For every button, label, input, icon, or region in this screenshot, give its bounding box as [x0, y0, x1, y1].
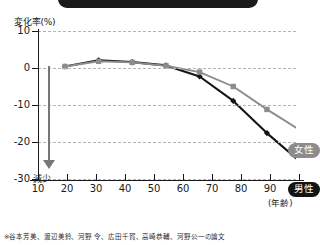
x-axis-caption: (年齢): [268, 196, 293, 208]
x-tick-20: [67, 174, 68, 180]
y-label-neg20: -20: [14, 136, 30, 147]
x-label-70: 70: [197, 183, 227, 194]
series-line-女性: [65, 61, 296, 130]
x-label-40: 40: [110, 183, 140, 194]
data-point-女性: [264, 107, 269, 112]
title-banner: [58, 0, 258, 8]
x-tick-50: [154, 174, 155, 180]
x-label-30: 30: [81, 183, 111, 194]
x-label-90: 90: [255, 183, 285, 194]
x-label-80: 80: [226, 183, 256, 194]
x-tick-40: [125, 174, 126, 180]
y-tick-neg10: [32, 105, 39, 106]
decrease-label: 減少: [33, 172, 51, 185]
x-tick-90: [270, 174, 271, 180]
x-tick-60: [183, 174, 184, 180]
data-point-女性: [197, 69, 202, 74]
x-axis-line: [30, 180, 304, 181]
y-label-neg10: -10: [14, 99, 30, 110]
legend-badge-female: 女性: [288, 143, 320, 158]
legend-badge-male: 男性: [288, 182, 320, 197]
y-label-0: 0: [24, 62, 30, 73]
x-tick-70: [212, 174, 213, 180]
x-tick-100: [299, 174, 300, 180]
plot-area: [38, 31, 296, 179]
gridline-neg10: [38, 105, 296, 106]
y-tick-neg20: [32, 142, 39, 143]
data-point-女性: [96, 59, 101, 64]
gridline-0: [38, 68, 296, 69]
x-tick-80: [241, 174, 242, 180]
gridline-10: [38, 31, 296, 32]
x-label-50: 50: [139, 183, 169, 194]
x-label-60: 60: [168, 183, 198, 194]
y-label-10: 10: [17, 25, 30, 36]
x-label-20: 20: [52, 183, 82, 194]
y-tick-10: [32, 31, 39, 32]
data-point-女性: [231, 84, 236, 89]
data-point-女性: [130, 60, 135, 65]
down-arrow-icon: [43, 160, 55, 169]
x-tick-30: [96, 174, 97, 180]
decrease-arrow-shaft: [48, 66, 50, 164]
series-line-男性: [65, 60, 296, 162]
source-credit: ※谷本芳美、渡辺美鈴、河野 令、広田千賀、高崎恭輔、河野公一の論文: [4, 231, 225, 241]
chart-container: 変化率(%) 10 0 -10 -20 -30 10 20 30 40 50 6…: [0, 0, 320, 245]
gridline-neg20: [38, 142, 296, 143]
y-tick-0: [32, 68, 39, 69]
